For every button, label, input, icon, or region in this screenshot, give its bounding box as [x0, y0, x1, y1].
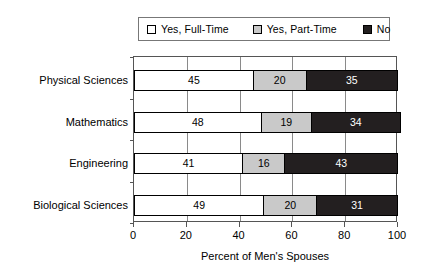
bar-row: 481934 [134, 112, 401, 133]
bar-segment: 16 [242, 153, 284, 174]
plot-area: 452035481934411643492031 [133, 56, 397, 222]
bar-segment: 35 [306, 70, 398, 91]
x-axis-tick [344, 222, 345, 227]
y-axis-label: Mathematics [0, 116, 128, 128]
x-axis-tick-label: 100 [388, 229, 406, 241]
y-axis-labels: Physical SciencesMathematicsEngineeringB… [0, 56, 128, 222]
bar-segment-value: 34 [350, 117, 362, 128]
y-axis-tick [130, 182, 134, 183]
legend-entry-full-time: Yes, Full-Time [147, 24, 229, 35]
x-axis-tick-label: 60 [285, 229, 297, 241]
bar-segment: 43 [284, 153, 398, 174]
bar-segment-value: 45 [188, 75, 200, 86]
y-axis-label: Engineering [0, 157, 128, 169]
x-axis-title: Percent of Men's Spouses [133, 250, 397, 262]
x-axis-tick-label: 20 [180, 229, 192, 241]
bar-segment-value: 35 [346, 75, 358, 86]
legend-entry-no: No [363, 24, 391, 35]
bar-segment-value: 31 [351, 200, 363, 211]
bar-segment: 48 [134, 112, 261, 133]
bar-row: 492031 [134, 195, 398, 216]
x-axis-tick [133, 222, 134, 227]
bar-segment-value: 43 [335, 158, 347, 169]
legend-swatch-full-time-icon [147, 25, 156, 34]
bar-segment: 19 [261, 112, 311, 133]
bar-segment-value: 48 [192, 117, 204, 128]
x-axis-tick [239, 222, 240, 227]
legend-swatch-part-time-icon [253, 25, 262, 34]
x-axis-tick [186, 222, 187, 227]
bar-segment-value: 16 [258, 158, 270, 169]
x-axis-tick [397, 222, 398, 227]
x-axis-tick-label: 0 [130, 229, 136, 241]
legend-swatch-no-icon [363, 25, 372, 34]
y-axis-label: Physical Sciences [0, 74, 128, 86]
chart-legend: Yes, Full-Time Yes, Part-Time No [138, 17, 390, 41]
bar-segment-value: 49 [193, 200, 205, 211]
bar-segment: 41 [134, 153, 242, 174]
bar-segment: 20 [253, 70, 306, 91]
y-axis-tick [130, 57, 134, 58]
bar-segment-value: 20 [274, 75, 286, 86]
bar-segment: 20 [263, 195, 316, 216]
y-axis-tick [130, 140, 134, 141]
bar-row: 411643 [134, 153, 398, 174]
bar-segment: 49 [134, 195, 263, 216]
bar-segment: 45 [134, 70, 253, 91]
x-axis-tick-label: 40 [232, 229, 244, 241]
x-axis-tick-label: 80 [338, 229, 350, 241]
bar-segment: 34 [311, 112, 401, 133]
y-axis-label: Biological Sciences [0, 199, 128, 211]
legend-entry-part-time: Yes, Part-Time [253, 24, 337, 35]
bar-row: 452035 [134, 70, 398, 91]
legend-label-full-time: Yes, Full-Time [161, 24, 229, 35]
bar-segment-value: 41 [183, 158, 195, 169]
bar-segment: 31 [316, 195, 398, 216]
y-axis-tick [130, 99, 134, 100]
legend-label-part-time: Yes, Part-Time [267, 24, 337, 35]
legend-label-no: No [377, 24, 391, 35]
bar-segment-value: 20 [284, 200, 296, 211]
bar-segment-value: 19 [280, 117, 292, 128]
x-axis-tick [291, 222, 292, 227]
